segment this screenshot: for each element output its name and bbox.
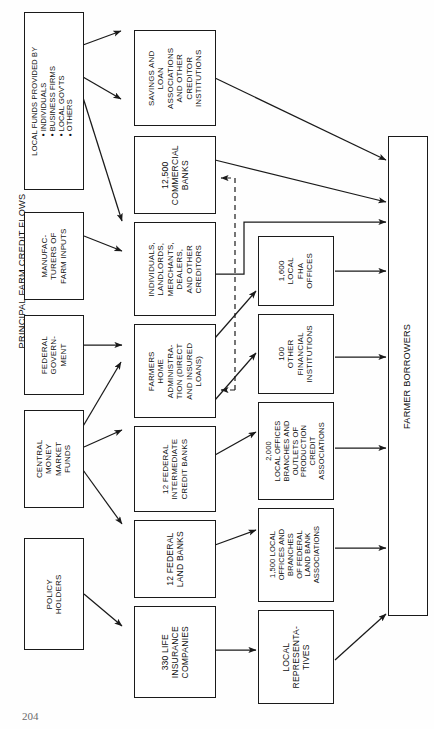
flow-local-funds-to-commercial-banks — [83, 77, 121, 99]
node-farmers-home-administration[interactable]: FARMERS HOME ADMINISTRA- TION (DIRECT AN… — [134, 324, 216, 418]
flow-fha-to-commercial-banks-dashed — [221, 178, 235, 390]
node-line: 12 FEDERAL — [161, 429, 170, 509]
node-line: ASSOCIATIONS — [166, 38, 175, 118]
flow-flb-to-flba — [215, 530, 256, 545]
flow-commercial-banks-to-borrowers — [215, 160, 386, 202]
node-farmer-borrowers[interactable]: FARMER BORROWERS — [388, 136, 428, 616]
node-line: REPRESENTA- — [291, 620, 301, 694]
node-line: AND OTHER — [175, 38, 184, 118]
node-line: 330 LIFE — [160, 612, 170, 692]
node-line: FUNDS — [63, 430, 72, 488]
node-line: MERCHANTS, — [166, 229, 175, 309]
node-line: 12 FEDERAL — [165, 521, 175, 597]
node-line: COMMERCIAL — [170, 137, 180, 213]
node-line: CREDITOR — [184, 38, 193, 118]
node-line: LAND BANKS — [175, 521, 185, 597]
flow-manufacturers-to-individuals — [84, 236, 122, 251]
node-line: LOCAL — [287, 238, 296, 304]
node-line: CREDIT BANKS — [180, 429, 189, 509]
node-line: INSTITUTIONS — [305, 317, 314, 391]
node-line: LOANS) — [194, 331, 203, 411]
node-line: MANUFAC- — [40, 227, 49, 285]
node-line: POLICY — [45, 565, 54, 623]
node-line: AND OTHER — [184, 229, 193, 309]
flow-savings-loan-to-borrowers — [215, 78, 386, 160]
node-other-financial-institutions[interactable]: 100 OTHER FINANCIAL INSTITUTIONS — [258, 314, 334, 394]
node-line: CENTRAL — [35, 430, 44, 488]
flow-local-funds-to-individuals — [80, 88, 122, 221]
node-line: FARMERS — [147, 331, 156, 411]
node-local-fha-offices[interactable]: 1,600 LOCAL FHA OFFICES — [258, 236, 334, 306]
node-local-representatives[interactable]: LOCAL REPRESENTA- TIVES — [258, 610, 334, 704]
node-line: BANKS — [180, 137, 190, 213]
flow-cmmf-to-fmha — [82, 362, 121, 428]
local-funds-bullet: OTHERS — [67, 66, 76, 137]
node-line: ASSOCIATIONS — [318, 414, 327, 488]
node-savings-and-loan-associations[interactable]: SAVINGS AND LOAN ASSOCIATIONS AND OTHER … — [134, 30, 216, 126]
node-line: LOAN — [156, 38, 165, 118]
flow-local-funds-to-savings-loan — [83, 31, 121, 45]
node-line: 1,600 — [277, 238, 286, 304]
node-line: FARM INPUTS — [59, 227, 68, 285]
node-line: CREDITORS — [194, 229, 203, 309]
node-line: INDIVIDUALS, — [147, 229, 156, 309]
node-central-money-market-funds[interactable]: CENTRAL MONEY MARKET FUNDS — [24, 410, 84, 508]
node-manufacturers-of-farm-inputs[interactable]: MANUFAC- TURERS OF FARM INPUTS — [24, 212, 84, 300]
node-life-insurance-companies[interactable]: 330 LIFE INSURANCE COMPANIES — [134, 606, 216, 698]
node-federal-land-banks[interactable]: 12 FEDERAL LAND BANKS — [134, 520, 216, 598]
node-line: HOME — [156, 331, 165, 411]
node-federal-government[interactable]: FEDERAL GOVERN- MENT — [24, 315, 84, 395]
node-line: FARMER BORROWERS — [403, 323, 414, 428]
node-commercial-banks[interactable]: 12,500 COMMERCIAL BANKS — [134, 136, 216, 214]
node-line: MONEY — [45, 430, 54, 488]
node-line: AND INSURED — [184, 331, 193, 411]
page-number: 204 — [22, 710, 39, 722]
node-policy-holders[interactable]: POLICY HOLDERS — [24, 538, 84, 650]
node-line: FHA — [296, 238, 305, 304]
flow-cmmf-to-ficb — [84, 430, 122, 447]
node-line: GOVERN- — [49, 326, 58, 384]
node-line: OTHER — [287, 317, 296, 391]
node-line: TURERS OF — [49, 227, 58, 285]
flow-ficb-to-pca — [215, 432, 256, 455]
node-line: FINANCIAL — [296, 317, 305, 391]
node-line: SAVINGS AND — [147, 38, 156, 118]
node-line: INSURANCE — [170, 612, 180, 692]
node-line: OFFICES — [305, 238, 314, 304]
node-line: 100 — [277, 317, 286, 391]
node-line: ADMINISTRA- — [166, 331, 175, 411]
node-line: DEALERS, — [175, 229, 184, 309]
node-individuals-landlords-merchants[interactable]: INDIVIDUALS, LANDLORDS, MERCHANTS, DEALE… — [134, 222, 216, 316]
node-line: COMPANIES — [180, 612, 190, 692]
node-line: INTERMEDIATE — [170, 429, 179, 509]
node-federal-intermediate-credit-banks[interactable]: 12 FEDERAL INTERMEDIATE CREDIT BANKS — [134, 426, 216, 512]
flow-policyholders-to-life-insurance — [84, 594, 122, 626]
node-line: INSTITUTIONS — [194, 38, 203, 118]
node-line: ASSOCIATIONS — [314, 518, 323, 592]
node-line: FEDERAL — [40, 326, 49, 384]
node-local-funds-provided-by[interactable]: LOCAL FUNDS PROVIDED BY INDIVIDUALS BUSI… — [24, 12, 84, 190]
node-federal-land-bank-association-offices[interactable]: 1,500 LOCAL OFFICES AND BRANCHES OF FEDE… — [258, 508, 334, 602]
node-line: TION (DIRECT — [175, 331, 184, 411]
node-line: MENT — [59, 326, 68, 384]
node-line: LANDLORDS, — [156, 229, 165, 309]
node-line: LOCAL — [281, 620, 291, 694]
flow-cmmf-to-flb — [83, 470, 122, 524]
flow-local-reps-to-borrowers — [335, 614, 386, 660]
node-line: MARKET — [54, 430, 63, 488]
node-line: TIVES — [301, 620, 311, 694]
node-line: HOLDERS — [54, 565, 63, 623]
node-line: 12,500 — [160, 137, 170, 213]
node-production-credit-association-outlets[interactable]: 2,000 LOCAL OFFICES BRANCHES AND OUTLETS… — [258, 402, 334, 500]
figure-canvas: PRINCIPAL FARM CREDIT FLOWS LOCAL FUNDS … — [0, 0, 434, 729]
